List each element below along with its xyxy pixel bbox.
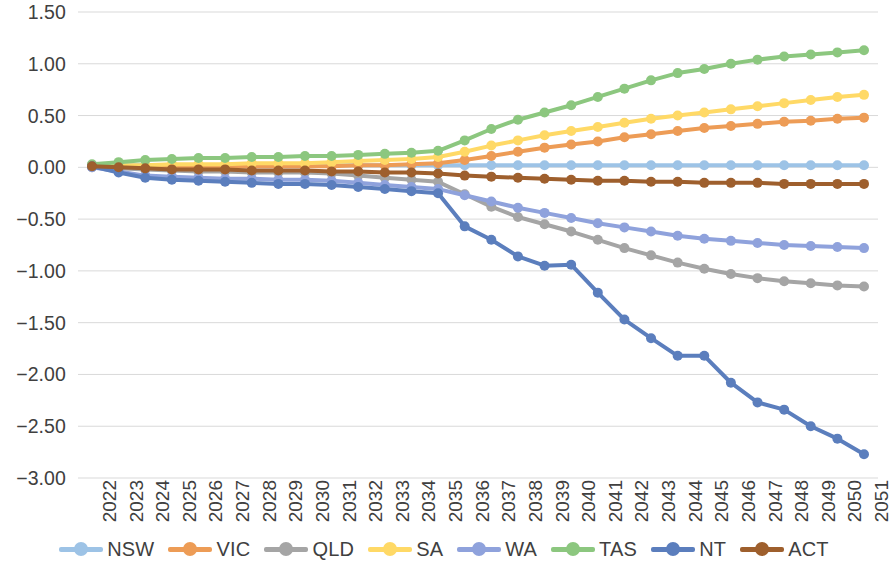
data-point [513, 135, 523, 145]
series-line [92, 166, 864, 454]
legend-label: SA [416, 538, 443, 561]
x-tick-label: 2037 [498, 480, 520, 522]
legend-swatch-icon [168, 542, 212, 556]
data-point [832, 242, 842, 252]
data-point [540, 261, 550, 271]
data-point [380, 184, 390, 194]
data-point [327, 166, 337, 176]
data-point [513, 115, 523, 125]
data-point [699, 64, 709, 74]
legend-item-tas[interactable]: TAS [551, 538, 637, 561]
data-point [832, 179, 842, 189]
data-point [753, 397, 763, 407]
data-point [566, 100, 576, 110]
legend-item-nt[interactable]: NT [651, 538, 726, 561]
data-point [273, 152, 283, 162]
data-point [646, 75, 656, 85]
data-point [753, 238, 763, 248]
data-point [513, 160, 523, 170]
data-point [726, 59, 736, 69]
data-point [460, 135, 470, 145]
data-point [566, 140, 576, 150]
legend-item-vic[interactable]: VIC [168, 538, 250, 561]
x-tick-label: 2038 [525, 480, 547, 522]
x-tick-label: 2031 [339, 480, 361, 522]
data-point [619, 84, 629, 94]
data-point [699, 351, 709, 361]
legend-label: WA [505, 538, 537, 561]
data-point [433, 169, 443, 179]
series-nt [87, 161, 869, 459]
data-point [380, 149, 390, 159]
data-point [699, 234, 709, 244]
data-point [513, 203, 523, 213]
data-point [806, 116, 816, 126]
data-point [619, 176, 629, 186]
x-tick-label: 2024 [152, 480, 174, 522]
legend-swatch-icon [651, 542, 695, 556]
data-point [486, 151, 496, 161]
data-point [699, 123, 709, 133]
data-point [433, 188, 443, 198]
x-tick-label: 2045 [711, 480, 733, 522]
data-point [619, 315, 629, 325]
data-point [513, 147, 523, 157]
data-point [300, 151, 310, 161]
data-point [247, 178, 257, 188]
data-point [779, 52, 789, 62]
data-point [806, 179, 816, 189]
data-point [779, 276, 789, 286]
legend-label: QLD [312, 538, 354, 561]
data-point [699, 264, 709, 274]
legend-item-sa[interactable]: SA [368, 538, 443, 561]
data-point [566, 213, 576, 223]
chart-legend: NSWVICQLDSAWATASNTACT [0, 534, 888, 564]
x-tick-label: 2035 [445, 480, 467, 522]
data-point [673, 111, 683, 121]
data-point [220, 177, 230, 187]
data-point [779, 240, 789, 250]
legend-item-act[interactable]: ACT [740, 538, 829, 561]
x-tick-label: 2050 [844, 480, 866, 522]
legend-item-nsw[interactable]: NSW [59, 538, 154, 561]
data-point [593, 235, 603, 245]
data-point [673, 351, 683, 361]
data-point [726, 160, 736, 170]
data-point [832, 47, 842, 57]
legend-item-qld[interactable]: QLD [264, 538, 354, 561]
data-point [806, 278, 816, 288]
data-point [779, 179, 789, 189]
data-point [327, 180, 337, 190]
legend-label: ACT [788, 538, 829, 561]
legend-item-wa[interactable]: WA [457, 538, 537, 561]
data-point [726, 378, 736, 388]
data-point [673, 258, 683, 268]
data-point [540, 107, 550, 117]
data-point [859, 113, 869, 123]
data-point [353, 150, 363, 160]
data-point [646, 160, 656, 170]
data-point [699, 107, 709, 117]
data-point [832, 114, 842, 124]
data-point [806, 241, 816, 251]
legend-label: NT [699, 538, 726, 561]
data-point [247, 165, 257, 175]
plot-svg [78, 12, 878, 478]
data-point [513, 173, 523, 183]
x-axis: 2022202320242025202620272028202920302031… [78, 480, 878, 532]
legend-swatch-icon [551, 542, 595, 556]
legend-dot [566, 542, 580, 556]
x-tick-label: 2048 [791, 480, 813, 522]
data-point [593, 136, 603, 146]
y-tick-label: 0.50 [28, 104, 66, 127]
data-point [486, 172, 496, 182]
data-point [193, 176, 203, 186]
legend-dot [74, 542, 88, 556]
data-point [87, 161, 97, 171]
data-point [566, 160, 576, 170]
data-point [673, 160, 683, 170]
legend-dot [666, 542, 680, 556]
data-point [619, 222, 629, 232]
legend-label: TAS [599, 538, 637, 561]
legend-swatch-icon [457, 542, 501, 556]
